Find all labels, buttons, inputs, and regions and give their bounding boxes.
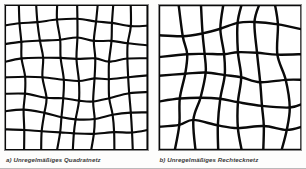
caption-rechtecknetz: b) Unregelmäßiges Rechtecknetz <box>158 155 303 164</box>
irregular-rectangular-grid-graphic <box>159 5 302 150</box>
caption-quadratnetz: a) Unregelmäßiges Quadratnetz <box>4 155 149 164</box>
grid-frame-rechtecknetz <box>158 4 303 151</box>
grid-frame-quadratnetz <box>4 4 149 151</box>
figure-sheet: a) Unregelmäßiges Quadratnetz b) Unregel… <box>0 0 306 169</box>
panel-quadratnetz: a) Unregelmäßiges Quadratnetz <box>4 4 149 169</box>
irregular-square-grid-graphic <box>5 5 148 150</box>
panel-rechtecknetz: b) Unregelmäßiges Rechtecknetz <box>158 4 303 169</box>
panel-row: a) Unregelmäßiges Quadratnetz b) Unregel… <box>0 0 306 169</box>
sheet-bottom-rule <box>0 168 306 169</box>
